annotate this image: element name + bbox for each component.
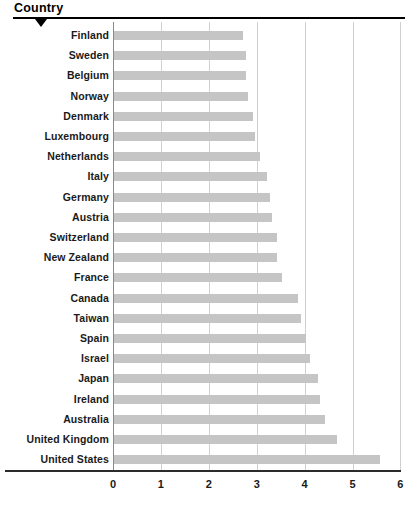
- bar: [114, 132, 255, 141]
- category-label: Norway: [5, 90, 109, 102]
- bar-row: Germany: [0, 187, 405, 208]
- bar: [114, 273, 282, 282]
- bar-row: Norway: [0, 86, 405, 107]
- bar-row: Spain: [0, 328, 405, 349]
- x-tick-label: 1: [148, 478, 174, 490]
- category-label: United States: [5, 453, 109, 465]
- category-label: New Zealand: [5, 251, 109, 263]
- x-tick-label: 6: [387, 478, 405, 490]
- bar: [114, 294, 298, 303]
- bar: [114, 455, 380, 464]
- category-label: Luxembourg: [5, 130, 109, 142]
- bar: [114, 253, 277, 262]
- bar-row: Austria: [0, 207, 405, 228]
- category-label: Canada: [5, 292, 109, 304]
- x-tick-label: 5: [340, 478, 366, 490]
- category-label: Denmark: [5, 110, 109, 122]
- bar: [114, 51, 246, 60]
- bar: [114, 31, 243, 40]
- x-tick-label: 4: [292, 478, 318, 490]
- bar: [114, 435, 337, 444]
- chart-header: Country: [0, 0, 405, 22]
- x-axis-line: [5, 470, 401, 472]
- category-label: Israel: [5, 352, 109, 364]
- bar-row: Sweden: [0, 45, 405, 66]
- bar: [114, 172, 267, 181]
- category-label: Belgium: [5, 69, 109, 81]
- bar-row: Luxembourg: [0, 126, 405, 147]
- bar-row: United Kingdom: [0, 429, 405, 450]
- x-tick-label: 2: [196, 478, 222, 490]
- bar: [114, 354, 310, 363]
- bar-row: Australia: [0, 409, 405, 430]
- bar-row: Denmark: [0, 106, 405, 127]
- bar-row: New Zealand: [0, 247, 405, 268]
- category-label: Taiwan: [5, 312, 109, 324]
- category-label: Germany: [5, 191, 109, 203]
- category-label: Australia: [5, 413, 109, 425]
- page-title: Country: [14, 1, 63, 15]
- bar: [114, 334, 306, 343]
- category-label: Japan: [5, 372, 109, 384]
- bar-row: Israel: [0, 348, 405, 369]
- bar-row: Japan: [0, 368, 405, 389]
- header-divider: [13, 17, 405, 19]
- x-tick-label: 3: [244, 478, 270, 490]
- bar-row: Belgium: [0, 65, 405, 86]
- bar: [114, 92, 248, 101]
- category-label: Netherlands: [5, 150, 109, 162]
- category-label: Spain: [5, 332, 109, 344]
- bar-row: Italy: [0, 166, 405, 187]
- bar-row: France: [0, 267, 405, 288]
- bar: [114, 374, 318, 383]
- bar: [114, 193, 270, 202]
- bar: [114, 415, 325, 424]
- bar-chart: Country FinlandSwedenBelgiumNorwayDenmar…: [0, 0, 405, 506]
- bar-row: Finland: [0, 25, 405, 46]
- bar: [114, 112, 253, 121]
- category-label: Italy: [5, 170, 109, 182]
- category-label: Austria: [5, 211, 109, 223]
- bar-row: Canada: [0, 288, 405, 309]
- category-label: Ireland: [5, 393, 109, 405]
- bar-row: Ireland: [0, 389, 405, 410]
- bar: [114, 233, 277, 242]
- bar: [114, 152, 260, 161]
- bar-row: Switzerland: [0, 227, 405, 248]
- bar: [114, 213, 272, 222]
- category-label: Finland: [5, 29, 109, 41]
- category-label: Sweden: [5, 49, 109, 61]
- x-tick-label: 0: [100, 478, 126, 490]
- bar-row: United States: [0, 449, 405, 470]
- bar-row: Taiwan: [0, 308, 405, 329]
- bar: [114, 395, 320, 404]
- bar: [114, 314, 301, 323]
- category-label: France: [5, 271, 109, 283]
- bar-row: Netherlands: [0, 146, 405, 167]
- bar: [114, 71, 246, 80]
- category-label: United Kingdom: [5, 433, 109, 445]
- category-label: Switzerland: [5, 231, 109, 243]
